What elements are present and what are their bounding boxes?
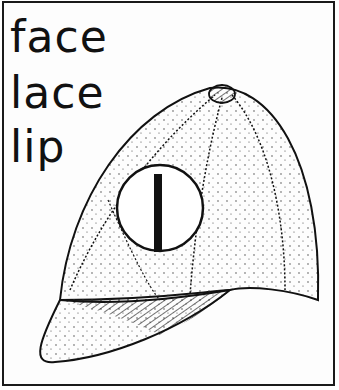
letter-badge bbox=[117, 165, 203, 252]
cap-illustration bbox=[0, 0, 339, 390]
cap-button bbox=[209, 85, 235, 103]
